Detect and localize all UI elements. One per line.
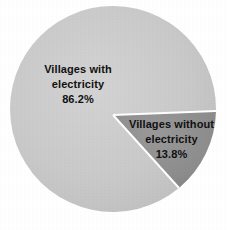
pie-svg [0,0,227,230]
pie-chart-figure: Villages with electricity 86.2% Villages… [0,0,227,230]
